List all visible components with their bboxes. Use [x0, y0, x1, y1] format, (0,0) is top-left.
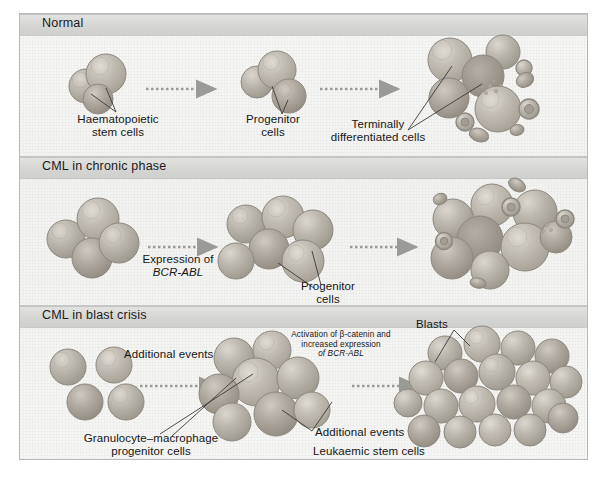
label-hsc-line1: Haematopoietic — [38, 113, 198, 126]
cell-cluster-blasts — [394, 326, 582, 448]
cell-cluster-chronic-expansion — [431, 175, 574, 289]
label-gmp-line1: Granulocyte–macrophage — [56, 432, 246, 445]
panel-chronic: CML in chronic phase — [20, 157, 587, 305]
label-haematopoietic-stem-cells: Haematopoietic stem cells — [38, 113, 198, 139]
label-progenitor-chronic-line1: Progenitor — [273, 280, 383, 293]
label-blasts: Blasts — [416, 318, 448, 331]
label-expression-line2: BCR-ABL — [123, 266, 233, 279]
label-hsc-line2: stem cells — [38, 126, 198, 139]
label-additional-events-bottom: Additional events — [315, 426, 404, 439]
label-expression-line1: Expression of — [123, 253, 233, 266]
label-terminally-differentiated-cells: Terminally differentiated cells — [298, 118, 458, 144]
cell-cluster-hsc — [69, 54, 126, 114]
label-activation-beta-catenin: Activation of β-catenin and increased ex… — [266, 330, 416, 359]
label-gmp-line2: progenitor cells — [56, 445, 246, 458]
label-activation-line1: Activation of β-catenin and — [266, 330, 416, 340]
label-additional-events-bottom-line1: Additional events — [315, 426, 404, 439]
label-leukaemic-stem-cells: Leukaemic stem cells — [313, 445, 425, 458]
label-terminal-line2: differentiated cells — [298, 131, 458, 144]
label-progenitor-cells-chronic: Progenitor cells — [273, 280, 383, 306]
label-additional-events-top-line1: Additional events — [124, 348, 213, 361]
label-activation-line2: increased expression — [266, 340, 416, 350]
panel-blast: CML in blast crisis — [20, 306, 587, 460]
figure-root: Normal — [0, 0, 605, 478]
label-terminal-line1: Terminally — [298, 118, 458, 131]
label-lsc-line1: Leukaemic stem cells — [313, 445, 425, 458]
label-expression-of-bcr-abl: Expression of BCR-ABL — [123, 253, 233, 279]
label-gmp-cells: Granulocyte–macrophage progenitor cells — [56, 432, 246, 458]
label-blasts-line1: Blasts — [416, 318, 448, 331]
cell-cluster-progenitor-normal — [241, 51, 306, 113]
figure-paper: Normal — [19, 13, 588, 460]
panel-normal: Normal — [20, 14, 587, 156]
label-additional-events-top: Additional events — [124, 348, 213, 361]
cell-cluster-progenitor-chronic — [218, 196, 333, 282]
label-activation-line3: of BCR-ABL — [266, 349, 416, 359]
